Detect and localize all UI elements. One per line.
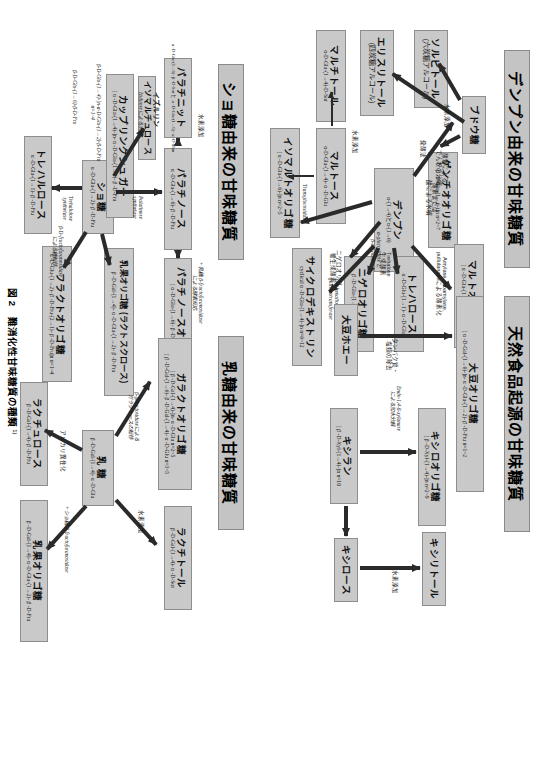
node-palatinose[interactable]: パラチノース α -D-Glu-(1→6)- β -D-Fru bbox=[164, 148, 192, 250]
node-palatinit-name: パラチニット bbox=[176, 67, 186, 128]
annotation-transglucosidase: Transglucosidase bbox=[302, 184, 308, 222]
annotation-galactosidase: β-galactosidaseによるガラクトースの転移 bbox=[128, 392, 140, 441]
node-lactulose-formula: β -D-Gal-(1→4)- β -D-Fru bbox=[26, 404, 32, 464]
node-xylitol[interactable]: キシリトール bbox=[422, 532, 446, 606]
figure-caption: 図 2 難消化性甘味糖質の種類 1) bbox=[6, 288, 20, 434]
node-lactosucrose-lactose[interactable]: 乳果オリゴ糖 β -D-Gal-(1→4)- α -D-Glu-(1→2)- β… bbox=[20, 500, 48, 642]
annotation-amylase: Amylase, Isoamylase,pullulanaseによる酵素化 bbox=[435, 252, 448, 316]
node-isomaltooligo-name: イソマルトオリゴ糖 bbox=[283, 137, 293, 229]
section-title-natural-label: 天然食品起源の甘味糖質 bbox=[507, 326, 528, 502]
annotation-trehalulose-synthetase: Trehalulosesynthetase bbox=[62, 196, 74, 221]
annotation-fermentation: 発酵法 bbox=[420, 140, 426, 158]
node-soy-whey-name: 大豆ホエー bbox=[341, 315, 351, 366]
node-lactose-name: 乳 糖 bbox=[96, 456, 106, 479]
section-title-starch-label: デンプン由来の甘味糖質 bbox=[507, 71, 528, 247]
node-lactulose-name: ラクチュロース bbox=[32, 398, 42, 469]
node-nigerooligo-name: ニゲロオリゴ糖 bbox=[357, 268, 367, 339]
node-cyclodextrin-formula: cyclical α -D-Glu-(1→4)-]n n=6~12 bbox=[299, 266, 305, 347]
annotation-fructofuranosidase-lactose: +ショ糖, β-fructofuranosidase bbox=[64, 506, 70, 573]
figure-caption-text: 難消化性甘味糖質の種類 bbox=[7, 317, 18, 427]
node-starch-formula: α-(1→4)とα-(1→6) bbox=[386, 197, 392, 242]
annotation-hydrogenation-maltitol: 水素添加 bbox=[352, 130, 358, 154]
node-galactooligo-formula: [ β -D-Gal-(1→4)-]n- α -D-Glu n=2~5 bbox=[170, 371, 176, 457]
node-trehalose-formula: α -D-Glu-(1→1)- α -D-Glu bbox=[401, 273, 407, 334]
figure-caption-note: 1) bbox=[12, 429, 18, 434]
node-xylose[interactable]: キシロース bbox=[334, 538, 358, 602]
node-lactosucrose-lactose-formula: β -D-Gal-(1→4)- α -D-Glu-(1→2)- β -D-Fru bbox=[26, 521, 32, 621]
node-xylo-oligo-name: キシロオリゴ糖 bbox=[430, 431, 440, 502]
node-lactosucrose-lactose-name: 乳果オリゴ糖 bbox=[32, 540, 42, 601]
node-erythritol-sub: (四炭糖アルコール) bbox=[368, 43, 376, 104]
node-maltose-name: マルトース bbox=[329, 151, 339, 202]
node-soy-oligo-name: 大豆オリゴ糖 bbox=[468, 363, 478, 424]
annotation-hydrogenation-xylitol: 水素添加 bbox=[392, 570, 398, 594]
section-title-sucrose: ショ糖由来の甘味糖質 bbox=[218, 64, 244, 260]
node-trehalulose[interactable]: トレハルロース α -D-Glu-(1→1)- β -D-Fru bbox=[24, 136, 52, 234]
node-trehalulose-name: トレハルロース bbox=[36, 149, 46, 220]
node-cyclodextrin[interactable]: サイクロデキストリン cyclical α -D-Glu-(1→4)-]n n=… bbox=[292, 248, 322, 366]
annotation-palatinose-synthetase: Palatinosesynthetase bbox=[132, 196, 144, 219]
annotation-enzyme-hydrolysis-2: 酵素または酸による水解 bbox=[425, 180, 438, 216]
node-isomaltooligo[interactable]: イソマルトオリゴ糖 [ α -D-Glu-(1→6)-]n n=2~5 bbox=[270, 128, 300, 238]
node-xylan-name: キシラン bbox=[342, 436, 352, 477]
annotation-izuluose-hydrolysis: Izuluoseによる水解 bbox=[138, 92, 144, 135]
annotation-trehalose-enzyme: Trehalose生成酵素 bbox=[379, 252, 392, 277]
node-galactooligo-formula2: [ β -D-Gal-(1→6)- β -D-Gal-(1→4)- α -D-G… bbox=[164, 354, 170, 474]
node-galactooligo-name: ガラクトオリゴ糖 bbox=[176, 373, 186, 455]
node-soy-oligo-formula: [ α -D-Gal-(1→6)-]n- α -D-Glu-(1→2)- β -… bbox=[462, 331, 468, 457]
node-sucrose-name: ショ糖 bbox=[96, 182, 106, 213]
node-lactose[interactable]: 乳 糖 β -D-Gal-(1→4)- α -D-Glu bbox=[82, 430, 114, 506]
node-glucose[interactable]: ブドウ糖 bbox=[462, 96, 486, 154]
figure-canvas: デンプン由来の甘味糖質 天然食品起源の甘味糖質 ショ糖由来の甘味糖質 乳糖由来の… bbox=[0, 0, 544, 778]
node-coupling-sugar-formula: [ α -D-Glu-(1→4)-]n- α -D-Glu-(1→2)- β -… bbox=[112, 91, 118, 202]
annotation-alkali: アルカリ異性化 bbox=[60, 430, 66, 472]
node-glucose-name: ブドウ糖 bbox=[469, 105, 479, 146]
node-soy-oligo[interactable]: 大豆オリゴ糖 [ α -D-Gal-(1→6)-]n- α -D-Glu-(1→… bbox=[456, 296, 484, 492]
node-xylo-oligo[interactable]: キシロオリゴ糖 [ β -D-Xyl-(1→4)-]n n=2~9 bbox=[418, 408, 446, 526]
node-trehalulose-formula: α -D-Glu-(1→1)- β -D-Fru bbox=[30, 155, 36, 215]
annotation-hydrogenation-lactitol: 水素添加 bbox=[138, 510, 144, 534]
annotation-fructofuranosidase-2: β-D-fructofuranosidaseによる糖転移 bbox=[52, 226, 64, 277]
node-maltose-formula: α-D-Glu-(1→4)- α -D-Glu bbox=[323, 146, 329, 206]
annotation-branch-note: β-D-Glu-(1→6)-β-D-Fru bbox=[72, 70, 78, 124]
annotation-endo-xylanase: Endo-1,4-β-xylanaseによる加水分解 bbox=[390, 386, 402, 431]
node-palatinit[interactable]: パラチニット α -D-Glu-(1→6)- β -D-Sor と α -D-G… bbox=[164, 58, 192, 138]
section-title-lactose: 乳糖由来の甘味糖質 bbox=[218, 336, 244, 530]
node-lactitol-name: ラクチトール bbox=[176, 527, 186, 588]
node-xylan[interactable]: キシラン [ β -D-Xyl-(1→4)-]n n=10 bbox=[330, 408, 358, 504]
node-lactitol[interactable]: ラクチトール β -D-Gal-(1→4)- α -D-Sor bbox=[164, 506, 192, 610]
node-lactosucrose-sucrose[interactable]: 乳果オリゴ糖 (ラクトスクロース) β -D-Gal-(1→4)- α -D-G… bbox=[104, 248, 134, 396]
section-title-sucrose-label: ショ糖由来の甘味糖質 bbox=[221, 82, 242, 242]
node-erythritol-name: エリスリトール bbox=[376, 37, 386, 108]
node-fructooligo-name: フラクトオリゴ糖 bbox=[55, 273, 65, 355]
node-galactooligo[interactable]: ガラクトオリゴ糖 [ β -D-Gal-(1→4)-]n- α -D-Glu n… bbox=[158, 338, 192, 490]
node-soy-whey[interactable]: 大豆ホエー bbox=[334, 304, 358, 376]
node-erythritol[interactable]: エリスリトール (四炭糖アルコール) bbox=[360, 30, 394, 116]
node-cyclodextrin-name: サイクロデキストリン bbox=[305, 256, 315, 358]
figure-caption-number: 図 2 bbox=[7, 288, 18, 306]
arrow-lactose-to-lactitol bbox=[116, 500, 156, 545]
node-isomaltooligo-formula: [ α -D-Glu-(1→6)-]n n=2~5 bbox=[277, 151, 283, 214]
section-title-lactose-label: 乳糖由来の甘味糖質 bbox=[221, 361, 242, 505]
node-lactosucrose-sucrose-name: 乳果オリゴ糖 (ラクトスクロース) bbox=[118, 260, 127, 383]
section-title-starch: デンプン由来の甘味糖質 bbox=[504, 50, 530, 268]
node-coupling-sugar-name: カップリングシュガー bbox=[118, 95, 128, 197]
node-lactose-formula: β -D-Gal-(1→4)- α -D-Glu bbox=[90, 438, 96, 499]
node-xylitol-name: キシリトール bbox=[429, 538, 439, 599]
node-xylan-formula: [ β -D-Xyl-(1→4)-]n n=10 bbox=[336, 426, 342, 486]
node-palatinose-name: パラチノース bbox=[176, 168, 186, 229]
node-starch-name: デンプン bbox=[392, 200, 402, 241]
annotation-coupling-note: β-D-Glu-(1→4)-]n-α-D-Glu-(1→2)-β-D-Frun=… bbox=[90, 64, 102, 161]
annotation-fructofuranosidase-1: +乳糖, β-fructofuranosidaseによる酵素反応 bbox=[192, 262, 204, 324]
node-lactosucrose-sucrose-formula: β -D-Gal-(1→4)- α -D-Glu-(1→2)- β -D-Fru bbox=[111, 272, 117, 372]
node-lactitol-formula: β -D-Gal-(1→4)- α -D-Sor bbox=[170, 528, 176, 588]
node-sorbitol-sub: (六炭糖アルコール) bbox=[422, 39, 430, 100]
node-palatinit-formula: α -D-Glu-(1→6)- β -D-Sor と α -D-Glu-(1→6… bbox=[170, 44, 175, 152]
node-trehalose-name: トレハロース bbox=[407, 273, 417, 334]
node-xylo-oligo-formula: [ β -D-Xyl-(1→4)-]n n=2~9 bbox=[424, 436, 430, 499]
node-sucrose-formula: α -D-Glu-(1→2)- β -D-Fru bbox=[90, 167, 96, 227]
annotation-protein-removal: タンパク質・塩類の除去 bbox=[385, 338, 398, 374]
annotation-izuluose: イズルリン bbox=[152, 92, 160, 127]
annotation-hydrogenation-palatinit: 水素添加 bbox=[198, 114, 204, 138]
annotation-hydrogenation-sorbitol: 水素添加 bbox=[444, 104, 450, 128]
